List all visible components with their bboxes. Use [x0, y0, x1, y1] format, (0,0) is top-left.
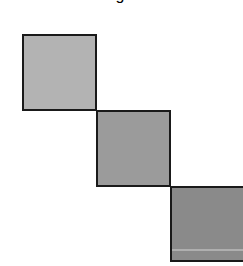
- square-light: [22, 34, 97, 111]
- square-dark: [170, 186, 243, 262]
- square-medium: [96, 110, 171, 187]
- title-fragment: g: [90, 0, 150, 2]
- scan-streak: [172, 249, 243, 251]
